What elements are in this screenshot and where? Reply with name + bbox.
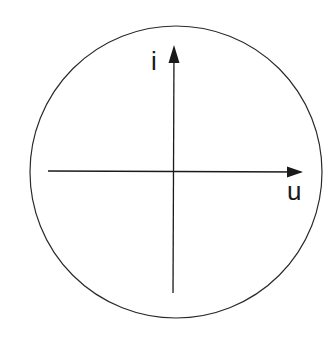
diagram-canvas: i u [0,0,327,342]
vertical-axis-label: i [151,46,157,76]
horizontal-axis-label: u [287,176,301,206]
vertical-axis [169,45,180,293]
horizontal-axis [48,167,303,178]
vertical-arrowhead-icon [169,45,180,63]
